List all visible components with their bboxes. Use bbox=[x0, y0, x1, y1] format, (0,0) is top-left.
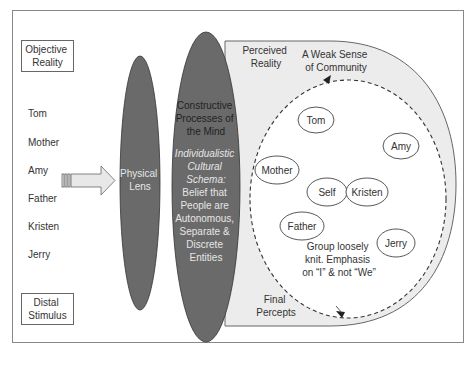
person-item: Tom bbox=[28, 108, 47, 119]
svg-text:Kristen: Kristen bbox=[351, 187, 382, 198]
person-item: Mother bbox=[28, 137, 60, 148]
community-dashed-circle bbox=[250, 80, 446, 318]
svg-text:Jerry: Jerry bbox=[385, 238, 407, 249]
person-item: Jerry bbox=[28, 249, 50, 260]
person-item: Kristen bbox=[28, 221, 59, 232]
diagram-canvas: Objective Reality Distal Stimulus Tom Mo… bbox=[0, 0, 476, 367]
group-note: Group loosely knit. Emphasis on “I” & no… bbox=[302, 241, 376, 278]
svg-text:Amy: Amy bbox=[391, 141, 411, 152]
svg-text:Father: Father bbox=[288, 221, 318, 232]
svg-text:Mother: Mother bbox=[261, 165, 293, 176]
svg-text:Tom: Tom bbox=[307, 115, 326, 126]
person-item: Father bbox=[28, 193, 58, 204]
person-item: Amy bbox=[28, 165, 48, 176]
svg-text:Self: Self bbox=[318, 187, 335, 198]
